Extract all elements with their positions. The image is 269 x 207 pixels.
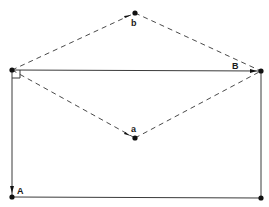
point-b — [132, 10, 137, 15]
label-b: b — [131, 18, 137, 28]
arrowhead-B-icon — [250, 69, 257, 73]
dashed-origin-to-b — [12, 13, 135, 70]
arrowhead-b-icon — [124, 15, 131, 18]
point-bottom-right — [258, 195, 263, 200]
point-A — [9, 194, 14, 199]
label-A: A — [17, 186, 24, 196]
dashed-origin-to-a — [12, 70, 135, 138]
point-origin — [9, 67, 14, 72]
point-top-right — [258, 68, 263, 73]
arrowhead-a-icon — [124, 132, 131, 136]
dashed-b-to-topright — [135, 13, 261, 71]
bottom-edge-line — [12, 197, 261, 198]
dashed-a-to-topright — [135, 71, 261, 138]
vector-diagram: b a B A — [0, 0, 269, 207]
label-a: a — [131, 124, 137, 134]
label-B: B — [232, 61, 239, 71]
vector-B-line — [12, 70, 261, 71]
point-a — [132, 135, 137, 140]
arrowhead-A-icon — [10, 186, 14, 193]
